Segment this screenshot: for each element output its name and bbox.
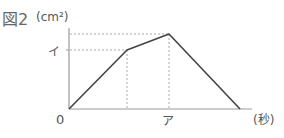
- area-graph-line: [69, 34, 240, 109]
- graph-plot: [0, 0, 284, 138]
